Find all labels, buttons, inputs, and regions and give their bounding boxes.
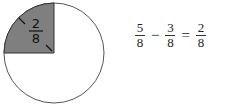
numerator: 2 <box>198 22 205 34</box>
sector-label-denominator: 8 <box>32 31 40 46</box>
fraction-result: 2 8 <box>195 22 207 49</box>
equals-sign: = <box>181 28 189 43</box>
denominator: 8 <box>198 37 205 49</box>
fraction-minuend: 5 8 <box>134 22 146 49</box>
fraction-subtrahend: 3 8 <box>164 22 176 49</box>
numerator: 5 <box>137 22 144 34</box>
numerator: 3 <box>167 22 174 34</box>
denominator: 8 <box>167 37 174 49</box>
minus-sign: − <box>151 28 159 43</box>
equation: 5 8 − 3 8 = 2 8 <box>134 19 207 51</box>
fraction-circle: 2 8 <box>0 0 110 108</box>
sector-label-numerator: 2 <box>32 16 40 31</box>
denominator: 8 <box>137 37 144 49</box>
